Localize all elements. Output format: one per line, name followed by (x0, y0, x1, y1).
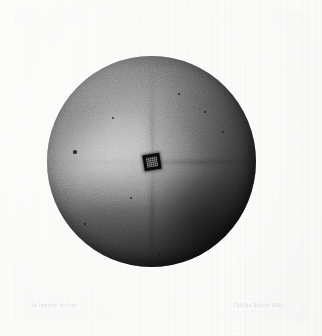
sphere-highlight (47, 111, 154, 215)
sphere-speck (236, 197, 238, 199)
sphere-speck (178, 93, 180, 95)
artwork-canvas: la lumière du jour Odilon Redon 1891 (0, 0, 322, 336)
sphere-figure (47, 56, 256, 267)
ray-upper-right (152, 66, 248, 162)
sphere-speck (204, 111, 207, 114)
aperture-inner (145, 156, 157, 168)
sphere-speck (158, 253, 160, 255)
sphere-speck (196, 231, 198, 233)
sphere-speck (112, 117, 114, 119)
inscription-title: la lumière du jour (32, 302, 78, 308)
ray-lower-left (56, 162, 152, 258)
ray-upper-left (56, 66, 152, 162)
ray-lower-right (152, 162, 248, 258)
sphere-speck (84, 223, 87, 226)
sphere-speck (222, 131, 224, 133)
sphere-speck (73, 150, 76, 153)
center-aperture (142, 152, 161, 170)
sphere-speck (130, 197, 132, 199)
sphere-body (47, 56, 256, 267)
inscription-signature: Odilon Redon 1891 (234, 302, 284, 308)
